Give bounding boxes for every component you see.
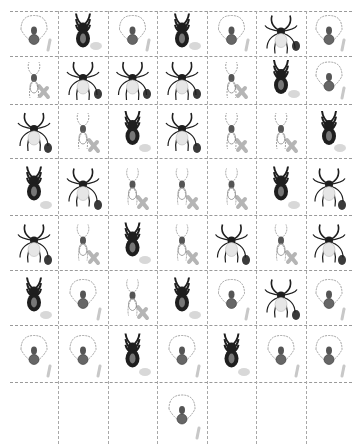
grid-cell[interactable]	[207, 270, 256, 325]
grid-cell[interactable]	[157, 158, 207, 215]
grid-cell[interactable]	[157, 56, 207, 104]
cell-graphic	[207, 325, 256, 382]
grid-cell[interactable]	[58, 382, 108, 444]
stroke-mark-icon	[98, 366, 100, 376]
blob-mark-icon	[189, 311, 201, 319]
grid-cell[interactable]	[256, 11, 306, 56]
cell-graphic	[108, 270, 157, 325]
grid-cell[interactable]	[108, 56, 157, 104]
grid-cell[interactable]	[157, 382, 207, 444]
oval-mark-icon	[94, 89, 102, 99]
cell-graphic	[58, 56, 108, 104]
grid-cell[interactable]	[306, 215, 352, 270]
dark-stout-spider-icon	[225, 334, 239, 368]
cell-graphic	[157, 158, 207, 215]
stroke-mark-icon	[246, 40, 248, 50]
dark-stout-spider-icon	[27, 167, 41, 201]
grid-cell[interactable]	[157, 215, 207, 270]
grid-cell[interactable]	[10, 382, 58, 444]
cell-graphic	[10, 56, 58, 104]
cell-graphic	[157, 382, 207, 444]
pale-orb-spider-icon	[316, 336, 342, 365]
grid-cell[interactable]	[256, 56, 306, 104]
grid-cell[interactable]	[306, 11, 352, 56]
grid-cell[interactable]	[157, 104, 207, 158]
grid-cell[interactable]	[10, 56, 58, 104]
cell-graphic	[306, 104, 352, 158]
grid-cell[interactable]	[108, 325, 157, 382]
oval-mark-icon	[338, 200, 346, 210]
cell-graphic	[157, 104, 207, 158]
grid-cell[interactable]	[207, 104, 256, 158]
grid-cell[interactable]	[207, 325, 256, 382]
cell-graphic	[256, 215, 306, 270]
cross-mark-icon	[237, 86, 246, 97]
grid-cell[interactable]	[10, 104, 58, 158]
stroke-mark-icon	[342, 40, 344, 50]
grid-cell[interactable]	[58, 56, 108, 104]
cell-graphic	[207, 270, 256, 325]
grid-cell[interactable]	[108, 158, 157, 215]
grid-cell[interactable]	[207, 215, 256, 270]
oval-mark-icon	[193, 143, 201, 153]
grid-cell[interactable]	[207, 11, 256, 56]
cross-mark-icon	[287, 140, 296, 151]
pale-orb-spider-icon	[21, 16, 47, 45]
grid-cell[interactable]	[256, 270, 306, 325]
grid-cell[interactable]	[256, 104, 306, 158]
cell-graphic	[108, 56, 157, 104]
grid-cell[interactable]	[306, 270, 352, 325]
grid-cell[interactable]	[58, 11, 108, 56]
grid-cell[interactable]	[256, 215, 306, 270]
grid-cell[interactable]	[108, 11, 157, 56]
grid-cell[interactable]	[10, 270, 58, 325]
cell-graphic	[108, 215, 157, 270]
cell-graphic	[58, 382, 108, 444]
grid-cell[interactable]	[108, 104, 157, 158]
grid-cell[interactable]	[306, 104, 352, 158]
pale-orb-spider-icon	[219, 16, 245, 45]
dark-stout-spider-icon	[126, 111, 140, 145]
grid-cell[interactable]	[58, 270, 108, 325]
pale-long-legged-spider-icon	[176, 225, 188, 261]
grid-cell[interactable]	[157, 325, 207, 382]
pale-orb-spider-icon	[21, 336, 47, 365]
grid-cell[interactable]	[256, 325, 306, 382]
grid-cell[interactable]	[306, 56, 352, 104]
dark-stout-spider-icon	[126, 334, 140, 368]
grid-cell[interactable]	[108, 382, 157, 444]
grid-cell[interactable]	[157, 270, 207, 325]
grid-cell[interactable]	[108, 215, 157, 270]
grid-cell[interactable]	[10, 158, 58, 215]
grid-cell[interactable]	[157, 11, 207, 56]
pale-long-legged-spider-icon	[28, 62, 40, 98]
cell-graphic	[10, 215, 58, 270]
grid-cell[interactable]	[58, 325, 108, 382]
grid-cell[interactable]	[306, 325, 352, 382]
grid-cell[interactable]	[108, 270, 157, 325]
cell-graphic	[256, 56, 306, 104]
cell-graphic	[10, 382, 58, 444]
grid-cell[interactable]	[10, 11, 58, 56]
grid-cell[interactable]	[10, 325, 58, 382]
cell-graphic	[10, 104, 58, 158]
stroke-mark-icon	[296, 366, 298, 376]
cross-mark-icon	[237, 197, 246, 208]
grid-cell[interactable]	[207, 56, 256, 104]
grid-cell[interactable]	[306, 158, 352, 215]
pale-orb-spider-icon	[70, 336, 96, 365]
grid-cell[interactable]	[256, 382, 306, 444]
grid-cell[interactable]	[58, 104, 108, 158]
blob-mark-icon	[139, 256, 151, 264]
grid-cell[interactable]	[306, 382, 352, 444]
grid-cell[interactable]	[256, 158, 306, 215]
grid-cell[interactable]	[207, 382, 256, 444]
cell-graphic	[306, 11, 352, 56]
grid-cell[interactable]	[207, 158, 256, 215]
grid-cell[interactable]	[58, 215, 108, 270]
cross-mark-icon	[89, 140, 98, 151]
grid-cell[interactable]	[58, 158, 108, 215]
grid-cell[interactable]	[10, 215, 58, 270]
cell-graphic	[207, 158, 256, 215]
cell-graphic	[108, 158, 157, 215]
